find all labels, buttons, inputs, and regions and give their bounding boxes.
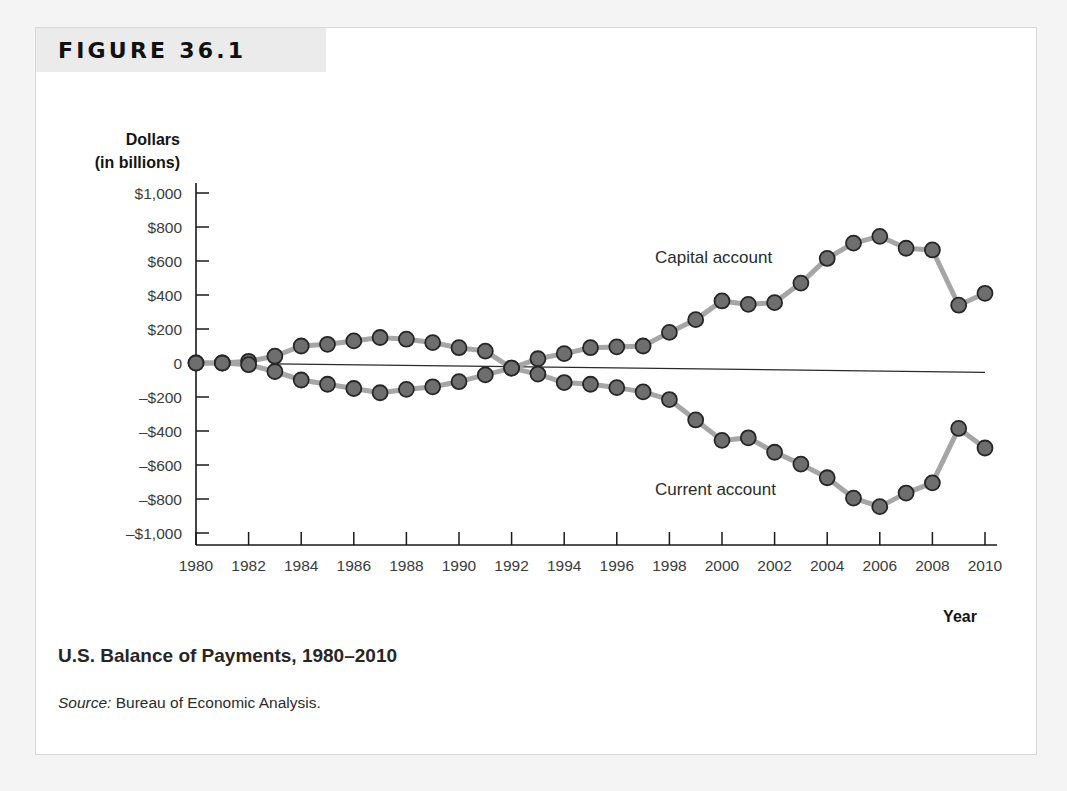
- data-point-marker: [294, 339, 309, 354]
- data-point-marker: [241, 357, 256, 372]
- x-axis-tick-label: 1990: [442, 557, 477, 574]
- data-point-marker: [530, 367, 545, 382]
- data-point-marker: [399, 332, 414, 347]
- y-axis-tick-label: $400: [148, 287, 183, 304]
- data-point-marker: [715, 293, 730, 308]
- x-axis-title: Year: [943, 608, 977, 625]
- data-point-marker: [793, 457, 808, 472]
- y-axis-tick-label: –$1,000: [126, 525, 182, 542]
- x-axis-tick-label: 1992: [494, 557, 528, 574]
- data-point-marker: [793, 276, 808, 291]
- y-axis-tick-label: –$800: [139, 491, 182, 508]
- data-point-marker: [846, 491, 861, 506]
- data-point-marker: [662, 325, 677, 340]
- data-point-marker: [820, 470, 835, 485]
- data-point-marker: [320, 337, 335, 352]
- data-point-marker: [925, 242, 940, 257]
- series-annotations: Capital accountCurrent account: [655, 248, 776, 499]
- y-axis-title-line2: (in billions): [95, 154, 180, 171]
- x-axis-tick-label: 1988: [389, 557, 423, 574]
- x-axis-tick-label: 2006: [863, 557, 897, 574]
- x-axis-tick-label: 1994: [547, 557, 582, 574]
- figure-caption: U.S. Balance of Payments, 1980–2010: [58, 645, 397, 667]
- data-point-marker: [557, 346, 572, 361]
- data-point-marker: [267, 349, 282, 364]
- y-axis-tick-label: 0: [173, 355, 182, 372]
- data-point-marker: [583, 377, 598, 392]
- x-axis-tick-label: 2008: [915, 557, 949, 574]
- y-axis-tick-label: –$200: [139, 389, 182, 406]
- x-axis-tick-label: 1982: [231, 557, 265, 574]
- x-axis-tick-label: 1986: [337, 557, 371, 574]
- series-label-capital-account: Capital account: [655, 248, 772, 267]
- data-point-marker: [452, 340, 467, 355]
- x-axis-tick-label: 2002: [757, 557, 791, 574]
- data-point-marker: [688, 412, 703, 427]
- data-point-marker: [346, 381, 361, 396]
- data-point-marker: [741, 297, 756, 312]
- data-point-marker: [373, 385, 388, 400]
- data-point-marker: [662, 392, 677, 407]
- y-axis-tick-label: $200: [148, 321, 183, 338]
- statistical-discrepancy: [275, 364, 985, 373]
- x-axis-tick-label: 2010: [968, 557, 1003, 574]
- y-axis-tick-label: $600: [148, 253, 183, 270]
- data-point-marker: [452, 374, 467, 389]
- x-axis-tick-labels: 1980198219841986198819901992199419961998…: [179, 557, 1003, 574]
- series-label-current-account: Current account: [655, 480, 776, 499]
- data-point-marker: [478, 344, 493, 359]
- y-axis-title-line1: Dollars: [126, 131, 180, 148]
- data-point-marker: [820, 251, 835, 266]
- source-text: Bureau of Economic Analysis.: [111, 694, 320, 711]
- data-point-marker: [425, 335, 440, 350]
- data-point-marker: [899, 486, 914, 501]
- data-point-marker: [741, 430, 756, 445]
- data-point-marker: [872, 499, 887, 514]
- y-axis-tick-labels: $1,000$800$600$400$2000–$200–$400–$600–$…: [126, 185, 182, 542]
- data-point-marker: [504, 361, 519, 376]
- figure-source: Source: Bureau of Economic Analysis.: [58, 694, 321, 712]
- data-point-marker: [320, 377, 335, 392]
- data-point-marker: [583, 340, 598, 355]
- x-axis-tick-label: 1996: [600, 557, 634, 574]
- y-axis-tick-label: –$400: [139, 423, 182, 440]
- data-point-marker: [189, 356, 204, 371]
- data-point-marker: [478, 367, 493, 382]
- data-point-marker: [425, 379, 440, 394]
- data-point-marker: [978, 286, 993, 301]
- y-axis-tick-label: $1,000: [135, 185, 183, 202]
- data-point-marker: [925, 475, 940, 490]
- data-point-marker: [846, 236, 861, 251]
- data-point-marker: [978, 441, 993, 456]
- x-axis-tick-label: 2004: [810, 557, 845, 574]
- data-point-marker: [767, 445, 782, 460]
- data-point-marker: [215, 356, 230, 371]
- data-point-marker: [899, 241, 914, 256]
- data-point-marker: [767, 295, 782, 310]
- y-axis-tick-label: $800: [148, 219, 183, 236]
- x-axis-tick-label: 1998: [652, 557, 686, 574]
- data-point-marker: [636, 339, 651, 354]
- x-axis-tick-label: 2000: [705, 557, 740, 574]
- data-point-marker: [636, 384, 651, 399]
- data-point-marker: [609, 380, 624, 395]
- figure-page: FIGURE 36.1 $1,000$800$600$400$2000–$200…: [0, 0, 1067, 791]
- data-point-marker: [951, 298, 966, 313]
- x-axis-tick-label: 1980: [179, 557, 214, 574]
- data-point-marker: [872, 229, 887, 244]
- data-point-marker: [951, 421, 966, 436]
- source-word: Source:: [58, 694, 111, 711]
- data-point-marker: [373, 330, 388, 345]
- chart-area: $1,000$800$600$400$2000–$200–$400–$600–$…: [0, 0, 1067, 791]
- data-point-marker: [715, 433, 730, 448]
- y-axis-tick-label: –$600: [139, 457, 182, 474]
- balance-of-payments-line-chart: $1,000$800$600$400$2000–$200–$400–$600–$…: [0, 0, 1067, 791]
- data-point-marker: [557, 375, 572, 390]
- data-point-marker: [530, 351, 545, 366]
- data-point-marker: [294, 373, 309, 388]
- data-point-marker: [399, 382, 414, 397]
- x-axis-tick-label: 1984: [284, 557, 319, 574]
- data-point-marker: [688, 312, 703, 327]
- statistical-discrepancy-line: [275, 364, 985, 373]
- data-point-marker: [609, 339, 624, 354]
